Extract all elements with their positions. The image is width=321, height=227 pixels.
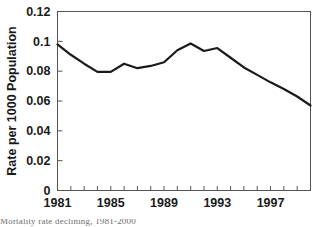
x-axis-tick-label: 1989: [150, 196, 178, 210]
line-chart: 00.020.040.060.080.10.12 198119851989199…: [0, 0, 321, 227]
y-axis-tick-label: 0.1: [33, 35, 50, 49]
y-axis-tick-label: 0.12: [26, 5, 50, 19]
x-axis-tick-label: 1993: [203, 196, 231, 210]
y-axis-tick-label: 0.08: [26, 64, 50, 78]
x-axis-tick-label: 1985: [97, 196, 125, 210]
caption-fragment: Mortality rate declining, 1981-2000: [0, 219, 321, 226]
y-axis-tick-label: 0.06: [26, 94, 50, 108]
y-axis-title: Rate per 1000 Population: [5, 26, 19, 175]
y-axis-tick-label: 0.04: [26, 124, 50, 138]
x-axis-tick-label: 1981: [44, 196, 72, 210]
chart-figure: 00.020.040.060.080.10.12 198119851989199…: [0, 0, 321, 227]
x-axis-tick-label: 1997: [257, 196, 285, 210]
y-axis-tick-label: 0.02: [26, 154, 50, 168]
caption-strip: Mortality rate declining, 1981-2000: [0, 219, 321, 227]
